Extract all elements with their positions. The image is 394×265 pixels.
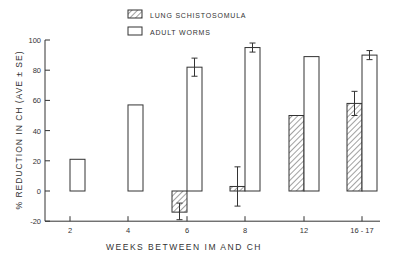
bar-adult-worms xyxy=(187,67,202,191)
bar-adult-worms xyxy=(70,159,85,191)
y-tick-label: 0 xyxy=(37,187,41,196)
y-tick-label: 60 xyxy=(33,96,41,105)
bar-lung-schistosomula xyxy=(289,116,304,192)
bar-adult-worms xyxy=(128,105,143,191)
bar-lung-schistosomula xyxy=(347,103,362,191)
x-tick-label: 8 xyxy=(243,226,247,235)
legend-label: LUNG SCHISTOSOMULA xyxy=(150,12,246,19)
y-tick-label: 20 xyxy=(33,157,41,166)
bars xyxy=(70,43,377,220)
legend-label: ADULT WORMS xyxy=(150,29,211,36)
x-tick-label: 6 xyxy=(185,226,189,235)
legend-swatch-hatched xyxy=(128,10,142,18)
x-axis-label: WEEKS BETWEEN IM AND CH xyxy=(106,242,262,252)
x-tick-label: 4 xyxy=(126,226,130,235)
x-tick-label: 16 - 17 xyxy=(350,226,373,235)
bar-adult-worms xyxy=(245,48,260,191)
bar-adult-worms xyxy=(362,55,377,191)
legend-swatch-open xyxy=(128,27,142,35)
bar-adult-worms xyxy=(304,57,319,191)
legend: LUNG SCHISTOSOMULAADULT WORMS xyxy=(128,10,246,36)
y-tick-label: 100 xyxy=(28,36,41,45)
y-tick-label: -20 xyxy=(30,217,41,226)
y-axis-label: % REDUCTION IN CH (AVE ± SE) xyxy=(14,50,24,209)
y-tick-label: 40 xyxy=(33,127,41,136)
axes: -2002040608010024681216 - 17 xyxy=(28,36,380,235)
bar-chart: LUNG SCHISTOSOMULAADULT WORMS -200204060… xyxy=(0,0,394,265)
x-tick-label: 12 xyxy=(300,226,308,235)
x-tick-label: 2 xyxy=(68,226,72,235)
y-tick-label: 80 xyxy=(33,66,41,75)
